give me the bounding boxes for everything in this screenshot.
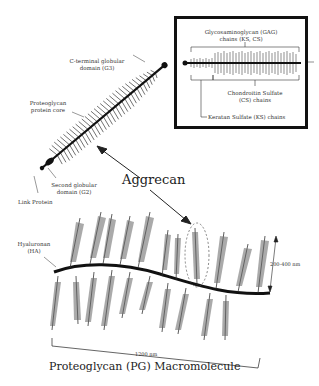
cs-label-line1: Chondroitin Sulfate — [217, 90, 293, 97]
cs-label-line2: (CS) chains — [217, 97, 293, 104]
gag-label-line2: chains (KS, CS) — [177, 36, 305, 43]
g2-line1: Second globular — [44, 182, 104, 189]
ha-line1: Hyaluronan — [14, 241, 54, 248]
c-terminal-line1: C-terminal globular — [62, 58, 132, 65]
aggrecan-label: Aggrecan — [122, 172, 185, 187]
g2-label: Second globular domain (G2) — [44, 182, 104, 195]
g2-line2: domain (G2) — [44, 189, 104, 196]
aggrecan-units — [52, 212, 265, 340]
figure-title: Proteoglycan (PG) Macromolecule — [49, 360, 240, 373]
c-terminal-line2: domain (G3) — [62, 65, 132, 72]
inset-box: Glycosaminoglycan (GAG) chains (KS, CS) … — [174, 16, 308, 129]
gag-label: Glycosaminoglycan (GAG) chains (KS, CS) — [177, 29, 305, 42]
core-line1: Proteoglycan — [22, 100, 74, 107]
core-line2: protein core — [22, 107, 74, 114]
ks-label: Keratan Sulfate (KS) chains — [208, 114, 285, 121]
c-terminal-label: C-terminal globular domain (G3) — [62, 58, 132, 71]
link-protein-label: Link Protein — [18, 199, 52, 206]
cs-label: Chondroitin Sulfate (CS) chains — [217, 90, 293, 103]
hyaluronan-label: Hyaluronan (HA) — [14, 241, 54, 254]
protein-core-label: Proteoglycan protein core — [22, 100, 74, 113]
aggrecan-bristles — [50, 216, 269, 336]
length-label: 1200 nm — [135, 351, 157, 358]
height-label: 200-400 nm — [270, 261, 300, 268]
ha-line2: (HA) — [14, 248, 54, 255]
